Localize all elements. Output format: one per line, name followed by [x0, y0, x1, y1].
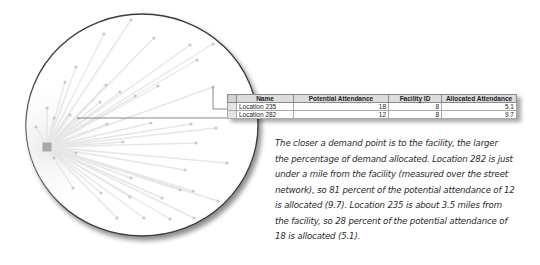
caption-line: network), so 81 percent of the potential…	[275, 183, 537, 199]
demand-point[interactable]	[74, 65, 77, 68]
demand-point[interactable]	[71, 186, 74, 189]
demand-point[interactable]	[129, 176, 132, 179]
demand-point[interactable]	[225, 161, 228, 164]
caption-line: under a mile from the facility (measured…	[275, 167, 537, 183]
demand-point[interactable]	[142, 216, 145, 219]
demand-point[interactable]	[74, 151, 77, 154]
demand-point[interactable]	[133, 94, 136, 97]
cell-allocated-attendance: 9.7	[442, 111, 517, 119]
demand-point[interactable]	[195, 58, 198, 61]
demand-point[interactable]	[178, 188, 181, 191]
demand-point[interactable]	[102, 32, 105, 35]
facility-marker[interactable]	[43, 143, 52, 152]
column-header-allocated-attendance[interactable]: Allocated Attendance	[442, 95, 517, 103]
demand-point[interactable]	[45, 106, 48, 109]
demand-point[interactable]	[99, 191, 102, 194]
row-selector[interactable]	[228, 103, 237, 111]
demand-point[interactable]	[156, 84, 159, 87]
column-header-facility-id[interactable]: Facility ID	[389, 95, 442, 103]
demand-point[interactable]	[189, 122, 192, 125]
demand-point[interactable]	[191, 189, 194, 192]
cell-facility-id: 8	[389, 103, 442, 111]
row-selector[interactable]	[228, 111, 237, 119]
demand-point[interactable]	[129, 18, 132, 21]
column-header-name[interactable]: Name	[237, 95, 294, 103]
demand-point[interactable]	[183, 168, 186, 171]
demand-point[interactable]	[128, 195, 131, 198]
demand-point[interactable]	[121, 140, 124, 143]
demand-point[interactable]	[194, 141, 197, 144]
row-selector-header[interactable]	[228, 95, 237, 103]
demand-point[interactable]	[149, 121, 152, 124]
demand-point[interactable]	[188, 43, 191, 46]
caption-line: the percentage of demand allocated. Loca…	[275, 152, 537, 168]
demand-point[interactable]	[105, 122, 108, 125]
demand-point[interactable]	[160, 196, 163, 199]
demand-point[interactable]	[192, 216, 195, 219]
demand-point[interactable]	[214, 126, 217, 129]
demand-point[interactable]	[115, 216, 118, 219]
demand-point[interactable]	[152, 36, 155, 39]
column-header-potential-attendance[interactable]: Potential Attendance	[294, 95, 389, 103]
demand-point[interactable]	[63, 80, 66, 83]
demand-point[interactable]	[98, 100, 101, 103]
demand-point[interactable]	[68, 113, 71, 116]
caption-line: The closer a demand point is to the faci…	[275, 136, 537, 152]
caption-line: 18 is allocated (5.1).	[275, 229, 537, 245]
attribute-table: Name Potential Attendance Facility ID Al…	[227, 94, 517, 119]
table-header-row: Name Potential Attendance Facility ID Al…	[228, 95, 517, 103]
demand-point[interactable]	[52, 156, 55, 159]
table-row[interactable]: Location 235 18 8 5.1	[228, 103, 517, 111]
caption-line: is allocated (9.7). Location 235 is abou…	[275, 198, 537, 214]
cell-potential-attendance: 12	[294, 111, 389, 119]
cell-facility-id: 8	[389, 111, 442, 119]
demand-point[interactable]	[211, 42, 214, 45]
caption-line: the facility, so 28 percent of the poten…	[275, 214, 537, 230]
demand-point[interactable]	[52, 116, 55, 119]
caption-text: The closer a demand point is to the faci…	[275, 136, 537, 245]
demand-point[interactable]	[34, 125, 37, 128]
cell-name: Location 235	[237, 103, 294, 111]
demand-point[interactable]	[118, 90, 121, 93]
cell-name: Location 282	[237, 111, 294, 119]
demand-point[interactable]	[104, 83, 107, 86]
cell-allocated-attendance: 5.1	[442, 103, 517, 111]
table-row[interactable]: Location 282 12 8 9.7	[228, 111, 517, 119]
demand-point[interactable]	[216, 199, 219, 202]
cell-potential-attendance: 18	[294, 103, 389, 111]
demand-point[interactable]	[168, 217, 171, 220]
